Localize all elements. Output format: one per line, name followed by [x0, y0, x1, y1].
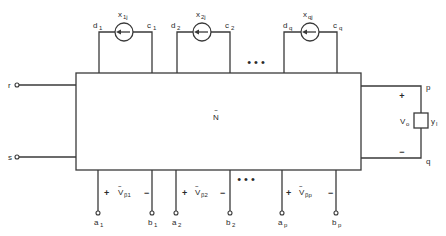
svg-text:q: q	[339, 25, 342, 31]
svg-text:d: d	[93, 21, 97, 30]
svg-text:β2: β2	[201, 192, 208, 198]
svg-text:b: b	[332, 218, 337, 227]
terminal-b2	[228, 211, 232, 215]
arrow-left-icon	[194, 30, 199, 35]
terminal-ap	[280, 211, 284, 215]
terminal-a1	[96, 211, 100, 215]
terminal-b1	[150, 211, 154, 215]
svg-text:1: 1	[154, 222, 158, 228]
svg-text:+: +	[182, 188, 187, 198]
load-admittance	[414, 113, 428, 128]
load-label: y	[431, 117, 435, 126]
output-plus: +	[399, 91, 404, 101]
svg-text:b: b	[226, 218, 231, 227]
svg-text:x: x	[303, 10, 307, 19]
bottom-ellipsis: • • •	[237, 173, 255, 185]
terminal-r-label: r	[8, 81, 11, 90]
circuit-diagram: N ~ r s p q + − V o y l x 1j d 1 c 1 x 2…	[0, 0, 446, 236]
terminal-a2	[174, 211, 178, 215]
current-source-2: x 2j d 2 c 2	[171, 10, 235, 73]
svg-text:x: x	[196, 10, 200, 19]
svg-text:2j: 2j	[201, 14, 206, 20]
wire-p	[361, 86, 421, 113]
bottom-port-1: + − V ~ β1 a 1 b 1	[94, 170, 158, 228]
svg-text:2: 2	[177, 25, 181, 31]
svg-text:d: d	[171, 21, 175, 30]
load-sub: l	[436, 121, 437, 127]
svg-text:2: 2	[178, 222, 182, 228]
bottom-port-2: + − V ~ β2 a 2 b 2	[172, 170, 236, 228]
svg-text:βp: βp	[305, 192, 312, 198]
svg-text:c: c	[333, 21, 337, 30]
wire-q	[361, 128, 421, 158]
svg-text:~: ~	[118, 183, 122, 189]
output-voltage-sub: o	[406, 121, 410, 127]
arrow-left-icon	[116, 30, 121, 35]
svg-text:x: x	[118, 10, 122, 19]
svg-text:a: a	[94, 218, 99, 227]
svg-text:−: −	[220, 188, 225, 198]
terminal-bp	[334, 211, 338, 215]
svg-text:q: q	[289, 25, 292, 31]
network-label: N	[213, 113, 219, 122]
svg-text:c: c	[225, 21, 229, 30]
svg-text:+: +	[286, 188, 291, 198]
svg-text:−: −	[144, 188, 149, 198]
svg-text:−: −	[328, 188, 333, 198]
svg-text:2: 2	[231, 25, 235, 31]
terminal-s	[15, 155, 19, 159]
svg-text:1j: 1j	[123, 14, 128, 20]
svg-text:~: ~	[195, 183, 199, 189]
svg-text:~: ~	[299, 183, 303, 189]
svg-text:1: 1	[153, 25, 157, 31]
terminal-s-label: s	[8, 153, 12, 162]
svg-text:1: 1	[99, 25, 103, 31]
svg-text:β1: β1	[124, 192, 131, 198]
svg-text:p: p	[284, 222, 288, 228]
svg-text:qj: qj	[308, 14, 313, 20]
svg-text:a: a	[278, 218, 283, 227]
arrow-left-icon	[302, 30, 307, 35]
network-label-tilde: ~	[214, 107, 218, 113]
svg-text:1: 1	[100, 222, 104, 228]
svg-text:p: p	[338, 222, 342, 228]
svg-text:+: +	[104, 188, 109, 198]
current-source-q: x qj d q c q	[283, 10, 342, 73]
svg-text:b: b	[148, 218, 153, 227]
svg-text:2: 2	[232, 222, 236, 228]
terminal-q-label: q	[426, 157, 430, 166]
svg-text:a: a	[172, 218, 177, 227]
terminal-p-label: p	[426, 83, 431, 92]
terminal-r	[15, 83, 19, 87]
bottom-port-p: + − V ~ βp a p b p	[278, 170, 342, 228]
output-minus: −	[399, 147, 404, 157]
svg-text:c: c	[147, 21, 151, 30]
top-ellipsis: • • •	[247, 56, 265, 68]
svg-text:d: d	[283, 21, 287, 30]
current-source-1: x 1j d 1 c 1	[93, 10, 157, 73]
